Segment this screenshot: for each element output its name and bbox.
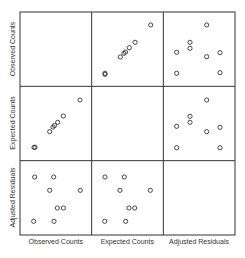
y-label-observed-counts: Observed Counts xyxy=(9,21,16,76)
y-label-adjusted-residuals: Adjusted Residuals xyxy=(9,167,17,227)
x-label-observed-counts: Observed Counts xyxy=(29,238,84,245)
x-label-adjusted-residuals: Adjusted Residuals xyxy=(169,238,229,246)
y-label-expected-counts: Expected Counts xyxy=(9,96,17,150)
x-label-expected-counts: Expected Counts xyxy=(101,238,155,246)
scatterplot-matrix: Observed Counts Expected Counts Adjusted… xyxy=(0,0,245,258)
background xyxy=(0,0,245,258)
